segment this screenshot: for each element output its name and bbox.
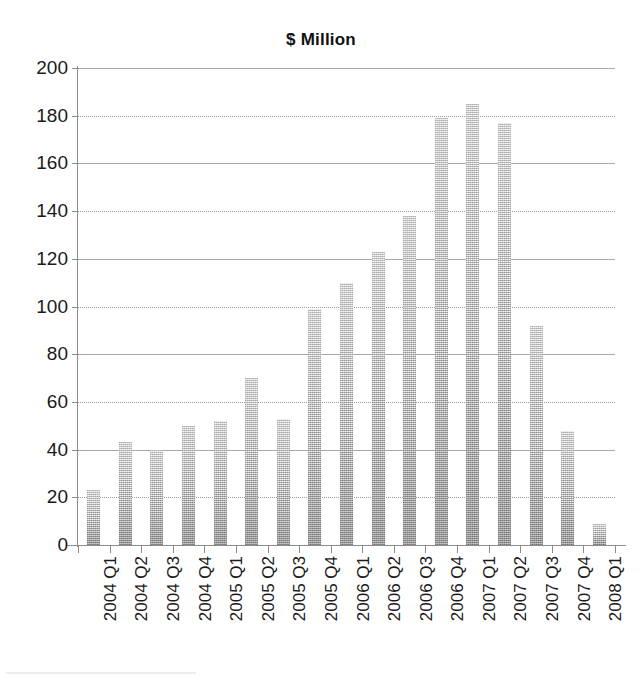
x-axis-tick-mark	[173, 545, 174, 553]
y-axis-tick-mark	[72, 497, 79, 498]
y-axis-tick-label: 140	[8, 200, 68, 222]
x-axis-tick-label: 2006 Q4	[448, 556, 468, 621]
x-axis-tick-mark	[299, 545, 300, 553]
x-axis-tick-label: 2006 Q2	[385, 556, 405, 621]
y-axis-tick-mark	[72, 259, 79, 260]
bar	[466, 104, 479, 545]
bar	[435, 118, 448, 545]
y-axis-tick-mark	[72, 116, 79, 117]
bar	[372, 252, 385, 545]
x-axis-tick-label: 2008 Q1	[606, 556, 626, 621]
plot-area	[78, 68, 615, 545]
x-axis-tick-label: 2004 Q2	[132, 556, 152, 621]
bar	[277, 419, 290, 545]
y-axis-tick-label: 40	[8, 439, 68, 461]
x-axis-tick-mark	[141, 545, 142, 553]
x-axis-tick-mark	[489, 545, 490, 553]
bar	[561, 431, 574, 545]
y-axis-tick-labels: 020406080100120140160180200	[0, 68, 68, 545]
y-axis-tick-mark	[72, 307, 79, 308]
x-axis-tick-label: 2006 Q3	[417, 556, 437, 621]
y-axis-tick-mark	[72, 354, 79, 355]
x-axis-tick-mark	[552, 545, 553, 553]
bar	[87, 490, 100, 545]
x-axis-tick-label: 2007 Q4	[575, 556, 595, 621]
x-axis-tick-mark	[362, 545, 363, 553]
y-axis-tick-label: 200	[8, 57, 68, 79]
gridline	[78, 211, 615, 212]
bar	[119, 442, 132, 545]
x-axis-tick-label: 2007 Q1	[480, 556, 500, 621]
bar	[340, 283, 353, 545]
y-axis-tick-label: 100	[8, 296, 68, 318]
x-axis-tick-label: 2005 Q2	[259, 556, 279, 621]
x-axis-tick-mark	[615, 545, 616, 553]
y-axis-tick-label: 180	[8, 105, 68, 127]
x-axis-tick-mark	[520, 545, 521, 553]
y-axis-tick-mark	[72, 450, 79, 451]
gridline	[78, 116, 615, 117]
bar	[593, 524, 606, 545]
x-axis-tick-mark	[583, 545, 584, 553]
gridline	[78, 68, 615, 69]
bar	[182, 426, 195, 545]
x-axis-tick-label: 2004 Q3	[164, 556, 184, 621]
bar	[214, 421, 227, 545]
gridline	[78, 259, 615, 260]
x-axis-tick-label: 2006 Q1	[354, 556, 374, 621]
x-axis-tick-label: 2005 Q3	[290, 556, 310, 621]
chart-title: $ Million	[0, 30, 642, 50]
x-axis-tick-mark	[236, 545, 237, 553]
y-axis-tick-mark	[72, 68, 79, 69]
y-axis-tick-label: 160	[8, 152, 68, 174]
x-axis-tick-marks	[78, 545, 615, 555]
bar	[530, 326, 543, 545]
bar	[245, 378, 258, 545]
y-axis-tick-mark	[72, 402, 79, 403]
x-axis-tick-label: 2007 Q3	[543, 556, 563, 621]
y-axis-tick-label: 60	[8, 391, 68, 413]
x-axis-tick-label: 2004 Q4	[196, 556, 216, 621]
y-axis-tick-label: 120	[8, 248, 68, 270]
x-axis-tick-mark	[394, 545, 395, 553]
y-axis-tick-label: 80	[8, 343, 68, 365]
x-axis-tick-mark	[110, 545, 111, 553]
y-axis-tick-label: 20	[8, 486, 68, 508]
bar	[498, 123, 511, 545]
x-axis-tick-label: 2005 Q1	[227, 556, 247, 621]
x-axis-tick-label: 2005 Q4	[322, 556, 342, 621]
x-axis-tick-mark	[268, 545, 269, 553]
y-axis-tick-label: 0	[8, 534, 68, 556]
x-axis-tick-label: 2007 Q2	[511, 556, 531, 621]
bar	[403, 216, 416, 545]
x-axis-tick-mark	[425, 545, 426, 553]
x-axis-tick-label: 2004 Q1	[101, 556, 121, 621]
bar	[150, 450, 163, 545]
bar-chart: $ Million 020406080100120140160180200 20…	[0, 0, 642, 681]
bar	[308, 309, 321, 545]
x-axis-tick-mark	[204, 545, 205, 553]
y-axis-tick-mark	[72, 211, 79, 212]
x-axis-tick-mark	[331, 545, 332, 553]
page-edge-artifact	[6, 672, 196, 674]
y-axis-tick-mark	[72, 163, 79, 164]
x-axis-tick-mark	[457, 545, 458, 553]
x-axis-tick-labels: 2004 Q12004 Q22004 Q32004 Q42005 Q12005 …	[78, 556, 615, 656]
x-axis-tick-mark	[78, 545, 79, 553]
gridline	[78, 163, 615, 164]
